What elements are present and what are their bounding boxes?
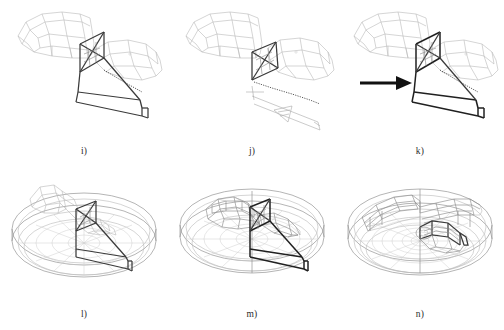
panel-l-artwork [0, 165, 168, 303]
panel-i-caption: i) [0, 146, 168, 157]
panel-k: k) [336, 0, 504, 165]
panel-j-caption: j) [168, 146, 336, 157]
panel-m: m) [168, 165, 336, 330]
highlighted-section-outline [76, 32, 148, 118]
panel-k-caption: k) [336, 146, 504, 157]
panel-i: i) [0, 0, 168, 165]
direction-arrow-icon [360, 76, 412, 90]
guide-lines-and-pointer [246, 86, 320, 130]
panel-m-caption: m) [168, 309, 336, 320]
panel-j: j) [168, 0, 336, 165]
meshed-nozzle-body [260, 213, 300, 237]
highlighted-section-outline [252, 42, 278, 80]
panel-grid: i) [0, 0, 504, 330]
panel-n: n) [336, 165, 504, 330]
panel-l: l) [0, 165, 168, 330]
figure-root: i) [0, 0, 504, 330]
panel-l-caption: l) [0, 309, 168, 320]
highlighted-section-outline [76, 201, 132, 271]
upper-duct-wireframe [186, 12, 262, 58]
panel-j-artwork [168, 0, 336, 140]
upper-duct-wireframe [18, 12, 94, 58]
panel-n-caption: n) [336, 309, 504, 320]
highlighted-section-outline [412, 32, 484, 118]
panel-m-artwork [168, 165, 336, 303]
upper-duct-wireframe [354, 12, 430, 58]
panel-n-artwork [336, 165, 504, 303]
panel-k-artwork [336, 0, 504, 140]
panel-i-artwork [0, 0, 168, 140]
